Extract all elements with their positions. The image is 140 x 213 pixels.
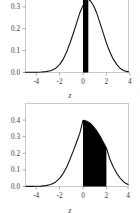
- bottom-panel-plot: 0.0 0.1 0.2 0.3 0.4 -4 -2 0 2 4: [0, 98, 140, 213]
- top-panel-frame: [26, 0, 129, 73]
- top-panel-axes: [26, 0, 129, 73]
- top-ytick-2: 0.2: [11, 25, 20, 33]
- top-panel-density-curve: [26, 0, 129, 72]
- top-ytick-0: 0.0: [11, 69, 20, 77]
- bottom-ytick-0: 0.0: [11, 183, 20, 191]
- top-panel-ytick-labels: 0.0 0.1 0.2 0.3: [11, 3, 20, 77]
- bottom-panel-axes: [26, 104, 129, 187]
- bottom-ytick-2: 0.2: [11, 150, 20, 158]
- top-panel-plot: 0.0 0.1 0.2 0.3 -4 -2 0 2 4: [0, 0, 140, 96]
- bottom-panel-ytick-labels: 0.0 0.1 0.2 0.3 0.4: [11, 117, 20, 191]
- bottom-panel-xtick-marks: [36, 187, 128, 190]
- bottom-panel-shaded-region: [83, 120, 106, 186]
- bottom-panel-ytick-marks: [23, 120, 26, 186]
- top-panel: 0.0 0.1 0.2 0.3 -4 -2 0 2 4: [0, 0, 140, 96]
- bottom-panel-frame: [26, 104, 129, 187]
- top-ytick-3: 0.3: [11, 3, 20, 11]
- bottom-ytick-4: 0.4: [11, 117, 20, 125]
- bottom-panel-density-curve: [26, 120, 128, 186]
- bottom-panel: 0.0 0.1 0.2 0.3 0.4 -4 -2 0 2 4: [0, 98, 140, 213]
- top-ytick-1: 0.1: [11, 47, 20, 55]
- top-panel-shaded-region: [83, 0, 88, 73]
- two-panel-normal-distribution-figure: 0.0 0.1 0.2 0.3 -4 -2 0 2 4: [0, 0, 140, 213]
- bottom-ytick-1: 0.1: [11, 166, 20, 174]
- bottom-panel-xaxis-label: z: [69, 207, 72, 213]
- top-panel-xtick-marks: [36, 73, 130, 76]
- top-panel-ytick-marks: [23, 7, 26, 73]
- bottom-ytick-3: 0.3: [11, 133, 20, 141]
